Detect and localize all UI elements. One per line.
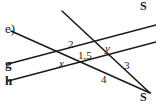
geometry-figure: e) g h S S 2 1,5 3 4 x y [0, 0, 156, 105]
parallel-line-h [8, 42, 156, 81]
line-label-h: h [5, 74, 12, 87]
angle-label-y: y [105, 43, 110, 54]
problem-label: e) [5, 22, 15, 35]
angle-label-4: 4 [101, 74, 107, 85]
angle-label-3: 3 [124, 60, 130, 71]
line-label-g: g [5, 57, 12, 70]
point-label-s-bottom: S [140, 91, 147, 103]
angle-label-x: x [59, 58, 64, 69]
angle-label-1-5: 1,5 [78, 50, 92, 61]
angle-label-2: 2 [68, 39, 74, 50]
point-label-s-top: S [140, 0, 147, 12]
